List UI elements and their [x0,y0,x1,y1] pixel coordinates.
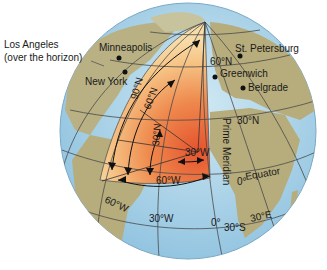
wedge-label-30n: 30°N [150,123,163,146]
city-label-minneapolis: Minneapolis [99,42,152,53]
city-label-stpetersburg: St. Petersburg [235,43,299,54]
minneapolis-dot [117,56,122,61]
prime-meridian-label: Prime Meridian [221,118,232,185]
globe-diagram: Los Angeles (over the horizon) Minneapol… [0,0,327,270]
belgrade-dot [241,86,246,91]
lat-label-30n: 30°N [237,115,259,126]
city-label-belgrade: Belgrade [248,82,288,93]
wedge-label-60w: 60°W [156,175,181,186]
newyork-dot [123,70,128,75]
lon-label-30w: 30°W [149,213,174,224]
lon-label-0: 0° [211,217,221,228]
callout-line1: Los Angeles [4,39,59,50]
lat-label-30s: 30°S [224,222,246,233]
wedge-label-30w: 30°W [185,147,210,158]
greenwich-dot [213,75,218,80]
lat-label-60n: 60°N [210,56,232,67]
stpetersburg-dot [238,54,243,59]
callout-line2: (over the horizon) [4,52,82,63]
city-label-greenwich: Greenwich [220,68,268,79]
city-label-newyork: New York [85,76,128,87]
